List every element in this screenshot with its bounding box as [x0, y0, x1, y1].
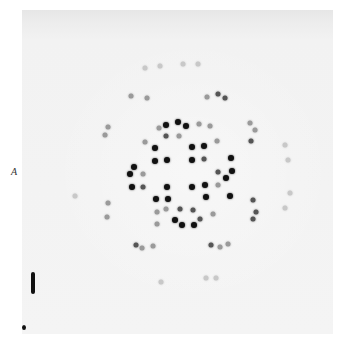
diffraction-spot: [73, 194, 78, 199]
diffraction-spot: [183, 123, 189, 129]
diffraction-spot: [178, 207, 183, 212]
diffraction-spot: [134, 243, 139, 248]
diffraction-spot: [152, 145, 158, 151]
diffraction-spot: [155, 210, 160, 215]
diffraction-spot: [158, 64, 163, 69]
diffraction-spot: [248, 121, 253, 126]
diffraction-spot: [153, 196, 159, 202]
diffraction-spot: [196, 62, 201, 67]
diffraction-spot: [227, 193, 233, 199]
diffraction-spot: [164, 184, 170, 190]
diffraction-spot: [249, 139, 254, 144]
diffraction-spot: [216, 170, 221, 175]
diffraction-spot: [140, 246, 145, 251]
diffraction-spot: [141, 172, 146, 177]
diffraction-spot: [198, 217, 203, 222]
diffraction-spot: [201, 143, 207, 149]
diffraction-spot: [205, 95, 210, 100]
diffraction-spot: [129, 184, 135, 190]
diffraction-spot: [229, 168, 235, 174]
diffraction-spot: [175, 119, 181, 125]
diffraction-spot: [208, 124, 213, 129]
diffraction-spot: [105, 215, 110, 220]
diffraction-spot: [189, 184, 195, 190]
diffraction-spot: [143, 140, 148, 145]
diffraction-spot: [189, 157, 195, 163]
diffraction-spot: [283, 143, 288, 148]
diffraction-spot: [179, 222, 185, 228]
diffraction-spot: [143, 66, 148, 71]
diffraction-spot: [283, 206, 288, 211]
film-mark-bar: [31, 272, 35, 294]
diffraction-spot: [202, 157, 207, 162]
diffraction-spot: [191, 222, 197, 228]
diffraction-spot: [106, 125, 111, 130]
diffraction-spot: [141, 185, 146, 190]
diffraction-spot: [103, 133, 108, 138]
diffraction-spot: [204, 276, 209, 281]
diffraction-plate: [22, 10, 333, 334]
diffraction-spot: [226, 242, 231, 247]
diffraction-spot: [181, 62, 186, 67]
diffraction-spot: [251, 217, 256, 222]
diffraction-spot: [164, 207, 169, 212]
diffraction-spot: [159, 280, 164, 285]
diffraction-spot: [214, 276, 219, 281]
diffraction-spot: [152, 158, 158, 164]
diffraction-spot: [164, 134, 169, 139]
diffraction-spot: [191, 208, 196, 213]
diffraction-spot: [165, 196, 171, 202]
diffraction-spot: [157, 126, 162, 131]
diffraction-spot: [202, 182, 208, 188]
diffraction-spot: [286, 158, 291, 163]
diffraction-spot: [106, 201, 111, 206]
diffraction-spot: [164, 157, 170, 163]
diffraction-spot: [254, 210, 259, 215]
panel-label: A: [11, 166, 17, 177]
diffraction-spot: [197, 122, 202, 127]
diffraction-spot: [163, 122, 169, 128]
diffraction-spot: [209, 243, 214, 248]
diffraction-spot: [129, 94, 134, 99]
diffraction-spot: [216, 92, 221, 97]
film-mark-dot: [22, 325, 26, 330]
diffraction-spot: [203, 194, 209, 200]
diffraction-spot: [216, 183, 221, 188]
diffraction-spot: [145, 96, 150, 101]
diffraction-spot: [189, 144, 195, 150]
diffraction-spot: [127, 171, 133, 177]
diffraction-spot: [215, 139, 220, 144]
plate-shading: [22, 10, 333, 334]
diffraction-spot: [131, 164, 137, 170]
diffraction-spot: [251, 198, 256, 203]
diffraction-spot: [288, 191, 293, 196]
diffraction-spot: [172, 217, 178, 223]
diffraction-spot: [253, 128, 258, 133]
diffraction-spot: [223, 96, 228, 101]
diffraction-spot: [218, 245, 223, 250]
diffraction-spot: [228, 155, 234, 161]
diffraction-spot: [177, 134, 182, 139]
diffraction-spot: [151, 244, 156, 249]
diffraction-spot: [155, 222, 160, 227]
diffraction-spot: [211, 212, 216, 217]
diffraction-spot: [223, 175, 229, 181]
